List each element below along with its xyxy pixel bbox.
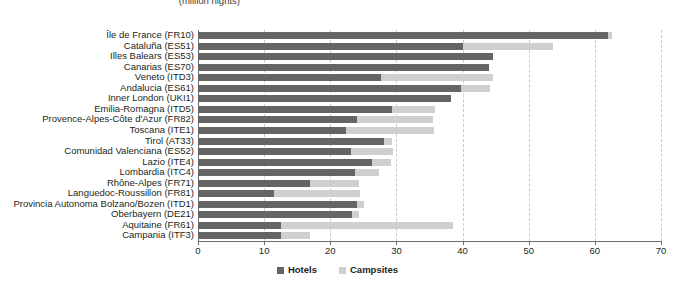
bar-segment-hotels xyxy=(198,180,310,187)
chart-row: Lazio (ITE4) xyxy=(198,157,661,168)
chart-row: Canarias (ES70) xyxy=(198,62,661,73)
chart-row: Aquitaine (FR61) xyxy=(198,220,661,231)
chart-row: Provincia Autonoma Bolzano/Bozen (ITD1) xyxy=(198,199,661,210)
x-axis-line xyxy=(198,241,661,242)
chart-row: Veneto (ITD3) xyxy=(198,72,661,83)
x-tick-label: 20 xyxy=(325,245,336,256)
chart-row: Languedoc-Roussillon (FR81) xyxy=(198,188,661,199)
chart-row: Oberbayern (DE21) xyxy=(198,209,661,220)
bar-segment-hotels xyxy=(198,148,351,155)
y-axis-label: Comunidad Valenciana (ES52) xyxy=(64,145,194,156)
bar-segment-hotels xyxy=(198,85,461,92)
y-axis-label: Languedoc-Roussillon (FR81) xyxy=(68,187,194,198)
bar-segment-campsites xyxy=(357,201,364,208)
bar-segment-hotels xyxy=(198,43,463,50)
x-tick-label: 40 xyxy=(457,245,468,256)
bar-segment-campsites xyxy=(461,85,489,92)
y-axis-label: Tirol (AT33) xyxy=(145,135,194,146)
x-tick-label: 70 xyxy=(656,245,667,256)
gridline-70 xyxy=(661,30,663,241)
bar-segment-campsites xyxy=(352,211,359,218)
bar-segment-hotels xyxy=(198,232,281,239)
bar-segment-hotels xyxy=(198,222,281,229)
legend-swatch-icon xyxy=(339,267,346,274)
y-axis-label: Île de France (FR10) xyxy=(106,29,194,40)
x-tick-label: 50 xyxy=(523,245,534,256)
chart-row: Andalucia (ES61) xyxy=(198,83,661,94)
y-axis-label: Emilia-Romagna (ITD5) xyxy=(94,103,194,114)
bar-segment-campsites xyxy=(281,222,453,229)
legend-swatch-icon xyxy=(277,267,284,274)
y-axis-label: Toscana (ITE1) xyxy=(130,124,194,135)
bar-segment-hotels xyxy=(198,159,372,166)
bar-segment-hotels xyxy=(198,64,489,71)
bar-segment-hotels xyxy=(198,32,608,39)
bar-segment-campsites xyxy=(608,32,612,39)
bar-segment-hotels xyxy=(198,95,451,102)
y-axis-label: Provence-Alpes-Côte d'Azur (FR82) xyxy=(42,113,194,124)
bar-segment-campsites xyxy=(372,159,391,166)
chart-legend: HotelsCampsites xyxy=(0,264,675,276)
legend-label: Campsites xyxy=(350,264,398,275)
y-axis-label: Provincia Autonoma Bolzano/Bozen (ITD1) xyxy=(13,198,194,209)
y-axis-label: Oberbayern (DE21) xyxy=(111,208,194,219)
bar-segment-campsites xyxy=(357,116,433,123)
x-tick-label: 10 xyxy=(259,245,270,256)
chart-row: Cataluña (ES51) xyxy=(198,41,661,52)
chart-row: Emilia-Romagna (ITD5) xyxy=(198,104,661,115)
x-tick-label: 30 xyxy=(391,245,402,256)
bar-segment-hotels xyxy=(198,190,274,197)
bar-segment-campsites xyxy=(281,232,311,239)
y-axis-label: Veneto (ITD3) xyxy=(135,71,194,82)
bar-segment-hotels xyxy=(198,211,352,218)
chart-row: Campania (ITF3) xyxy=(198,230,661,241)
bar-segment-campsites xyxy=(351,148,393,155)
bar-segment-hotels xyxy=(198,106,392,113)
y-axis-label: Cataluña (ES51) xyxy=(124,40,194,51)
bar-segment-campsites xyxy=(274,190,360,197)
bar-segment-campsites xyxy=(463,43,552,50)
y-axis-label: Illes Balears (ES53) xyxy=(110,50,194,61)
bar-segment-hotels xyxy=(198,74,381,81)
y-axis-label: Campania (ITF3) xyxy=(122,229,194,240)
bar-segment-campsites xyxy=(310,180,358,187)
bar-segment-hotels xyxy=(198,201,357,208)
chart-row: Inner London (UKI1) xyxy=(198,93,661,104)
bar-segment-hotels xyxy=(198,138,384,145)
legend-label: Hotels xyxy=(288,264,317,275)
legend-item[interactable]: Campsites xyxy=(339,264,398,276)
bar-segment-campsites xyxy=(392,106,434,113)
chart-row: Illes Balears (ES53) xyxy=(198,51,661,62)
y-axis-label: Aquitaine (FR61) xyxy=(122,219,194,230)
chart-row: Toscana (ITE1) xyxy=(198,125,661,136)
bar-segment-hotels xyxy=(198,127,346,134)
y-axis-label: Andalucia (ES61) xyxy=(120,82,194,93)
chart-row: Lombardia (ITC4) xyxy=(198,167,661,178)
chart-row: Rhône-Alpes (FR71) xyxy=(198,178,661,189)
plot-area: Île de France (FR10)Cataluña (ES51)Illes… xyxy=(198,30,661,241)
bar-segment-campsites xyxy=(384,138,393,145)
y-axis-label: Lombardia (ITC4) xyxy=(120,166,194,177)
chart-row: Provence-Alpes-Côte d'Azur (FR82) xyxy=(198,114,661,125)
bar-segment-hotels xyxy=(198,116,357,123)
y-axis-label: Canarias (ES70) xyxy=(124,61,194,72)
bar-segment-campsites xyxy=(346,127,434,134)
bar-segment-hotels xyxy=(198,53,493,60)
chart-row: Tirol (AT33) xyxy=(198,136,661,147)
bar-chart: (million nights) Île de France (FR10)Cat… xyxy=(0,0,675,286)
bar-segment-hotels xyxy=(198,169,355,176)
x-tick-label: 0 xyxy=(195,245,200,256)
chart-row: Île de France (FR10) xyxy=(198,30,661,41)
chart-row: Comunidad Valenciana (ES52) xyxy=(198,146,661,157)
bar-segment-campsites xyxy=(355,169,378,176)
bar-segment-campsites xyxy=(381,74,493,81)
chart-title: (million nights) xyxy=(0,0,240,6)
y-axis-label: Rhône-Alpes (FR71) xyxy=(107,177,194,188)
y-axis-label: Lazio (ITE4) xyxy=(142,156,194,167)
x-tick-label: 60 xyxy=(590,245,601,256)
legend-item[interactable]: Hotels xyxy=(277,264,317,276)
y-axis-label: Inner London (UKI1) xyxy=(108,92,194,103)
